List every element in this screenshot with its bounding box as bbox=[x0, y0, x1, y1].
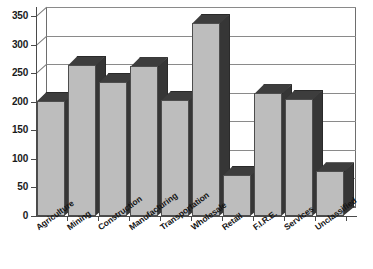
y-tick-350 bbox=[31, 16, 36, 17]
bar-front-face bbox=[285, 99, 313, 216]
bar-front-face bbox=[130, 66, 158, 216]
bar-front-face bbox=[192, 23, 220, 216]
bar-front-face bbox=[37, 101, 65, 216]
y-tick-label-100: 100 bbox=[0, 153, 28, 164]
bar-front-face bbox=[223, 175, 251, 216]
bar-front-face bbox=[99, 82, 127, 216]
y-tick-300 bbox=[31, 45, 36, 46]
y-tick-250 bbox=[31, 73, 36, 74]
y-tick-label-150: 150 bbox=[0, 124, 28, 135]
y-tick-label-300: 300 bbox=[0, 39, 28, 50]
y-tick-200 bbox=[31, 102, 36, 103]
y-tick-label-250: 250 bbox=[0, 67, 28, 78]
y-tick-100 bbox=[31, 159, 36, 160]
bar-front-face bbox=[68, 65, 96, 216]
bar-chart: 050100150200250300350 AgricultureMiningC… bbox=[0, 0, 373, 269]
y-tick-150 bbox=[31, 130, 36, 131]
x-axis-labels: AgricultureMiningConstructionManufacturi… bbox=[0, 216, 373, 269]
y-tick-label-50: 50 bbox=[0, 181, 28, 192]
y-tick-label-200: 200 bbox=[0, 96, 28, 107]
y-tick-50 bbox=[31, 187, 36, 188]
y-tick-label-350: 350 bbox=[0, 10, 28, 21]
bar-front-face bbox=[254, 93, 282, 216]
gridline-350 bbox=[46, 7, 356, 8]
